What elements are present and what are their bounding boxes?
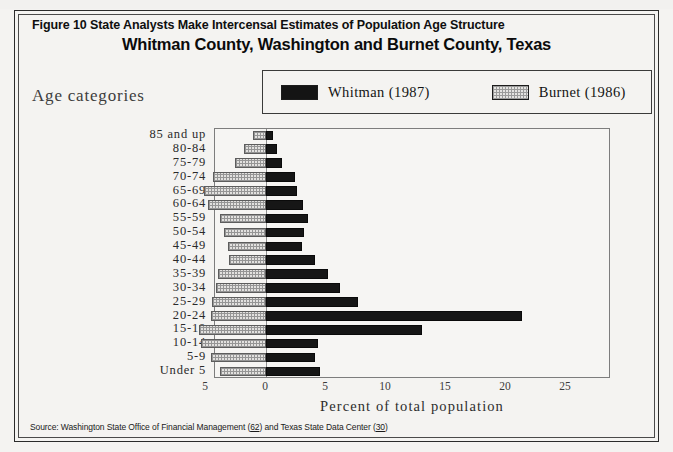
y-axis-label: 85 and up <box>150 128 207 142</box>
bar-row <box>215 296 609 310</box>
legend-entries: Whitman (1987)Burnet (1986) <box>263 71 651 113</box>
legend-label: Burnet (1986) <box>539 84 626 101</box>
bar-burnet <box>224 228 266 238</box>
bar-whitman <box>266 158 282 168</box>
x-axis-tick: 15 <box>439 380 451 392</box>
bar-burnet <box>220 214 266 224</box>
x-axis-tick: 5 <box>202 380 208 392</box>
bar-burnet <box>199 325 266 335</box>
bar-whitman <box>266 214 308 224</box>
x-axis-tick-labels: 50510152025 <box>214 380 610 396</box>
bar-whitman <box>266 353 315 363</box>
bar-burnet <box>216 283 266 293</box>
bar-row <box>215 198 609 212</box>
bar-rows <box>215 129 609 377</box>
bar-row <box>215 240 609 254</box>
x-axis-tick: 10 <box>379 380 391 392</box>
source-reference-30[interactable]: 30 <box>376 422 385 432</box>
bar-burnet <box>201 339 266 349</box>
legend-label: Whitman (1987) <box>328 84 430 101</box>
y-axis-label: 30-34 <box>173 281 206 295</box>
bar-whitman <box>266 339 318 349</box>
legend-entry-burnet: Burnet (1986) <box>492 84 626 101</box>
y-axis-label: 25-29 <box>173 295 206 309</box>
x-axis-title: Percent of total population <box>214 398 610 415</box>
bar-row <box>215 268 609 282</box>
y-axis-label: 55-59 <box>173 211 206 225</box>
y-axis-label: 40-44 <box>173 253 206 267</box>
bar-burnet <box>213 172 266 182</box>
y-axis-label: 5-9 <box>187 350 206 364</box>
plot-area <box>214 128 610 378</box>
bar-burnet <box>208 200 266 210</box>
bar-whitman <box>266 172 295 182</box>
y-axis-label: 80-84 <box>173 142 206 156</box>
bar-row <box>215 351 609 365</box>
bar-row <box>215 323 609 337</box>
bar-burnet <box>211 353 266 363</box>
bar-row <box>215 212 609 226</box>
bar-row <box>215 282 609 296</box>
bar-burnet <box>204 186 266 196</box>
bar-whitman <box>266 367 320 377</box>
y-axis-label: 70-74 <box>173 170 206 184</box>
bar-whitman <box>266 131 273 141</box>
bar-whitman <box>266 269 328 279</box>
bar-whitman <box>266 297 358 307</box>
figure-title: Figure 10 State Analysts Make Intercensa… <box>32 18 505 32</box>
bar-whitman <box>266 283 340 293</box>
bar-row <box>215 365 609 379</box>
bar-burnet <box>229 255 266 265</box>
bar-burnet <box>212 297 266 307</box>
figure-subtitle: Whitman County, Washington and Burnet Co… <box>0 35 673 54</box>
x-axis-tick: 5 <box>322 380 328 392</box>
bar-burnet <box>244 144 266 154</box>
bar-burnet <box>253 131 266 141</box>
bar-whitman <box>266 144 277 154</box>
y-axis-label: 60-64 <box>173 197 206 211</box>
bar-row <box>215 157 609 171</box>
bar-whitman <box>266 255 315 265</box>
chart-legend: Whitman (1987)Burnet (1986) <box>262 70 652 114</box>
y-axis-label: 65-69 <box>173 184 206 198</box>
bar-burnet <box>211 311 266 321</box>
bar-row <box>215 143 609 157</box>
bar-burnet <box>228 242 266 252</box>
legend-entry-whitman: Whitman (1987) <box>281 84 430 101</box>
bar-burnet <box>235 158 266 168</box>
hatched-swatch-icon <box>492 85 529 100</box>
x-axis-tick: 25 <box>559 380 571 392</box>
black-swatch-icon <box>281 85 318 100</box>
bar-row <box>215 171 609 185</box>
bar-row <box>215 254 609 268</box>
x-axis-tick: 0 <box>262 380 268 392</box>
bar-whitman <box>266 228 304 238</box>
bar-whitman <box>266 311 522 321</box>
bar-row <box>215 185 609 199</box>
bar-whitman <box>266 242 302 252</box>
y-axis-label: 20-24 <box>173 309 206 323</box>
y-axis-label: 75-79 <box>173 156 206 170</box>
y-axis-label: 50-54 <box>173 225 206 239</box>
bar-burnet <box>218 269 266 279</box>
y-axis-label: 35-39 <box>173 267 206 281</box>
bar-whitman <box>266 200 303 210</box>
bar-row <box>215 226 609 240</box>
bar-row <box>215 337 609 351</box>
source-prefix: Source: Washington State Office of Finan… <box>30 422 250 432</box>
scan-artifact-strip <box>0 0 673 9</box>
y-axis-label: Under 5 <box>160 364 206 378</box>
source-middle: ) and Texas State Data Center ( <box>259 422 375 432</box>
bar-whitman <box>266 325 422 335</box>
y-axis-label: 45-49 <box>173 239 206 253</box>
bar-burnet <box>220 367 266 377</box>
y-axis-category-labels: 85 and up80-8475-7970-7465-6960-6455-595… <box>60 128 210 378</box>
bar-whitman <box>266 186 297 196</box>
figure-container: Figure 10 State Analysts Make Intercensa… <box>0 0 673 452</box>
bar-row <box>215 129 609 143</box>
x-axis-tick: 20 <box>499 380 511 392</box>
source-note: Source: Washington State Office of Finan… <box>30 422 388 432</box>
y-axis-heading: Age categories <box>32 86 145 106</box>
bar-row <box>215 310 609 324</box>
source-suffix: ) <box>385 422 388 432</box>
